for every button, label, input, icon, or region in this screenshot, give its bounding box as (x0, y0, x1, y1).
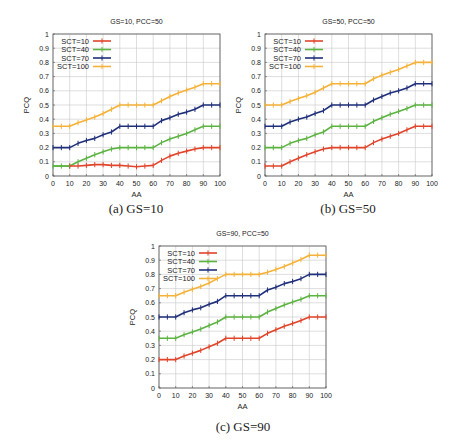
svg-text:0.9: 0.9 (145, 257, 155, 264)
svg-text:80: 80 (289, 392, 297, 399)
svg-text:0.5: 0.5 (145, 314, 155, 321)
svg-text:1: 1 (151, 243, 155, 250)
svg-text:20: 20 (189, 392, 197, 399)
svg-text:70: 70 (272, 392, 280, 399)
svg-text:90: 90 (305, 392, 313, 399)
svg-text:50: 50 (239, 392, 247, 399)
svg-text:10: 10 (172, 392, 180, 399)
svg-text:0.2: 0.2 (145, 356, 155, 363)
svg-text:30: 30 (205, 392, 213, 399)
svg-text:0.6: 0.6 (145, 299, 155, 306)
svg-text:100: 100 (320, 392, 332, 399)
x-axis-label: AA (237, 402, 247, 411)
svg-text:60: 60 (255, 392, 263, 399)
svg-text:0.7: 0.7 (145, 285, 155, 292)
svg-text:0: 0 (157, 392, 161, 399)
chart-2: 010203040506070809010000.10.20.30.40.50.… (128, 230, 332, 411)
line-chart-gs90: 010203040506070809010000.10.20.30.40.50.… (0, 0, 455, 448)
svg-text:40: 40 (222, 392, 230, 399)
caption-gs90: (c) GS=90 (193, 419, 293, 435)
svg-text:0.3: 0.3 (145, 342, 155, 349)
legend-label: SCT=100 (163, 274, 195, 283)
chart-panel-gs90: 010203040506070809010000.10.20.30.40.50.… (0, 0, 455, 448)
svg-text:0: 0 (151, 385, 155, 392)
y-axis-label: PCQ (128, 309, 137, 325)
chart-title: GS=90, PCC=50 (216, 230, 269, 237)
svg-text:0.8: 0.8 (145, 271, 155, 278)
svg-text:0.1: 0.1 (145, 370, 155, 377)
svg-text:0.4: 0.4 (145, 328, 155, 335)
